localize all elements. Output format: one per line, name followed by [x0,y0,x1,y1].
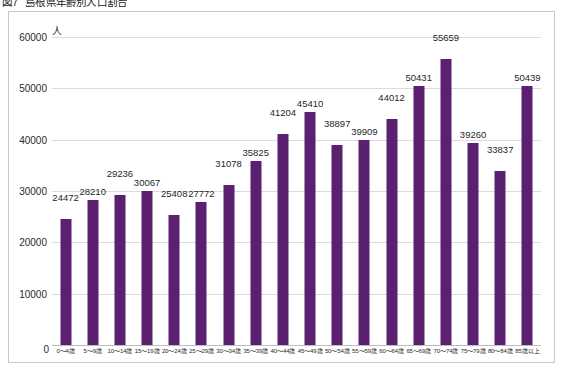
bar-value-label: 50439 [514,72,540,83]
y-axis-unit-label: 人 [52,23,62,38]
x-tick-label: 85歳以上 [515,346,539,355]
bar-slot[interactable]: 55659 [432,37,459,345]
bar-slot[interactable]: 50439 [514,37,541,345]
y-tick-label: 50000 [19,83,47,94]
bar-value-label: 39909 [351,126,377,137]
bar-slot[interactable]: 27772 [188,37,215,345]
x-tick-label: 0〜4歳 [56,346,74,355]
bar-slot[interactable]: 31078 [215,37,242,345]
bar[interactable] [250,161,261,345]
y-axis-zero-label: 0 [41,344,49,355]
bar-slot[interactable]: 38897 [324,37,351,345]
bar[interactable] [196,202,207,345]
x-tick-label: 25〜29歳 [189,346,214,355]
bar-value-label: 27772 [188,188,214,199]
bar-value-label: 35825 [243,147,269,158]
x-tick-label: 60〜64歳 [379,346,404,355]
bar[interactable] [169,215,180,345]
bar-slot[interactable]: 44012 [378,37,405,345]
x-tick-label: 20〜24歳 [162,346,187,355]
bar-slot[interactable]: 45410 [297,37,324,345]
x-tick-label: 80〜84歳 [488,346,513,355]
bar-value-label: 41204 [270,107,296,118]
x-tick-label: 40〜44歳 [271,346,296,355]
bar[interactable] [413,86,424,345]
bar[interactable] [114,195,125,345]
bar-slot[interactable]: 28210 [79,37,106,345]
bar-value-label: 33837 [487,144,513,155]
bar-value-label: 31078 [215,158,241,169]
x-tick-label: 10〜14歳 [108,346,133,355]
bar-value-label: 45410 [297,98,323,109]
bar[interactable] [87,200,98,345]
bar-slot[interactable]: 29236 [106,37,133,345]
bar-slot[interactable]: 33837 [487,37,514,345]
chart-panel: 人 100002000030000400005000060000 2447228… [8,11,555,363]
x-tick-label: 75〜79歳 [461,346,486,355]
bar-value-label: 28210 [80,186,106,197]
bar[interactable] [522,86,533,345]
bar-value-label: 29236 [107,168,133,179]
bar[interactable] [60,219,71,345]
x-axis-labels: 0〜4歳5〜9歳10〜14歳15〜19歳20〜24歳25〜29歳30〜34歳35… [52,345,541,359]
bar-value-label: 39260 [460,129,486,140]
y-tick-label: 60000 [19,32,47,43]
bar-slot[interactable]: 39909 [351,37,378,345]
y-tick-label: 10000 [19,288,47,299]
x-tick-label: 55〜59歳 [352,346,377,355]
x-tick-label: 35〜39歳 [243,346,268,355]
bar-value-label: 25408 [161,188,187,199]
bar-slot[interactable]: 30067 [134,37,161,345]
y-tick-label: 30000 [19,186,47,197]
bar-value-label: 55659 [433,32,459,43]
x-tick-label: 30〜34歳 [216,346,241,355]
bar[interactable] [495,171,506,345]
bar-slot[interactable]: 25408 [161,37,188,345]
bar-value-label: 30067 [134,177,160,188]
x-tick-label: 5〜9歳 [84,346,102,355]
bar-value-label: 38897 [324,118,350,129]
bar[interactable] [468,143,479,345]
bar-value-label: 24472 [52,192,78,203]
bar-slot[interactable]: 39260 [460,37,487,345]
bar-value-label: 50431 [406,72,432,83]
bar[interactable] [332,145,343,345]
x-tick-label: 65〜69歳 [406,346,431,355]
bar[interactable] [305,112,316,345]
x-tick-label: 45〜49歳 [298,346,323,355]
y-tick-label: 20000 [19,237,47,248]
figure-caption-title: 島根県年齢別人口割合 [25,0,127,7]
bar[interactable] [359,140,370,345]
bar[interactable] [142,191,153,345]
plot-area: 100002000030000400005000060000 244722821… [52,37,541,345]
x-tick-label: 70〜74歳 [434,346,459,355]
figure-caption: 図7島根県年齢別人口割合 [2,0,127,7]
bars-layer: 2447228210292363006725408277723107835825… [52,37,541,345]
bar-slot[interactable]: 24472 [52,37,79,345]
y-tick-label: 40000 [19,134,47,145]
bar[interactable] [386,119,397,345]
bar-slot[interactable]: 35825 [242,37,269,345]
bar[interactable] [223,185,234,345]
bar[interactable] [277,134,288,346]
bar-slot[interactable]: 50431 [405,37,432,345]
x-tick-label: 15〜19歳 [135,346,160,355]
x-tick-label: 50〜54歳 [325,346,350,355]
bar-slot[interactable]: 41204 [269,37,296,345]
bar-value-label: 44012 [378,92,404,103]
figure-caption-number: 図7 [2,0,18,7]
bar[interactable] [440,59,451,345]
